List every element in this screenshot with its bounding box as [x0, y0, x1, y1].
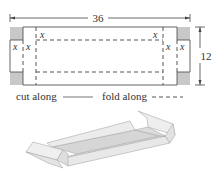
length-label: 36 [93, 12, 105, 24]
x-label-left-inner: x [25, 41, 31, 52]
x-label-top-right: x [152, 29, 158, 40]
legend-cut-label: cut along [16, 90, 57, 102]
corner-cut-top-right [177, 27, 190, 40]
width-label: 12 [201, 50, 212, 62]
arrow-up-icon [199, 27, 202, 32]
width-dimension: 12 [195, 27, 212, 85]
corner-cut-bottom-right [177, 72, 190, 85]
arrow-down-icon [199, 80, 202, 85]
legend-fold-label: fold along [102, 90, 147, 102]
folded-box [26, 111, 175, 168]
x-label-top-left: x [39, 29, 45, 40]
x-label-right-inner: x [165, 41, 171, 52]
legend: cut along fold along [16, 90, 183, 102]
arrow-left-icon [10, 17, 15, 20]
length-dimension: 36 [10, 12, 190, 24]
diagram-canvas: 36 12 x x x x x x [0, 0, 215, 185]
flat-net: x x x x x x [10, 27, 190, 85]
corner-cut-top-left [10, 27, 23, 40]
arrow-right-icon [185, 17, 190, 20]
corner-cut-bottom-left [10, 72, 23, 85]
x-label-left-outer: x [12, 41, 18, 52]
x-label-right-outer: x [179, 41, 185, 52]
